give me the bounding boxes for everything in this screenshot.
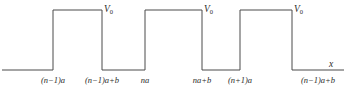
- potential-diagram-figure: V0 V0 V0 x (n−1)a (n−1)a+b na na+b (n+1)…: [0, 0, 363, 92]
- tick-label-n-minus-1-a: (n−1)a: [41, 76, 65, 85]
- tick-label-n-plus-1-a: (n+1)a: [228, 76, 252, 85]
- potential-height-label-2: V0: [204, 5, 213, 15]
- tick-label-na: na: [141, 76, 150, 85]
- potential-waveform-path: [2, 10, 344, 70]
- tick-label-last: (n−1)a+b: [301, 76, 335, 85]
- potential-height-label-3: V0: [294, 5, 303, 15]
- x-axis-label: x: [329, 60, 333, 70]
- potential-height-label-1: V0: [104, 5, 113, 15]
- tick-label-n-minus-1-a-plus-b: (n−1)a+b: [85, 76, 119, 85]
- tick-label-na-plus-b: na+b: [193, 76, 212, 85]
